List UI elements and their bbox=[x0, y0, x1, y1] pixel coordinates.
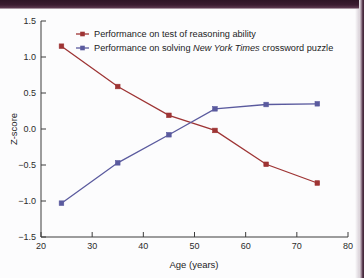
series-2 bbox=[59, 102, 319, 206]
legend-item-2: Performance on solving New York Times cr… bbox=[76, 43, 333, 53]
axis-frame bbox=[41, 21, 348, 237]
legend: Performance on test of reasoning ability… bbox=[76, 29, 333, 53]
chart-figure: −1.5−1.0−0.50.00.51.01.5 20304050607080 … bbox=[0, 0, 364, 278]
y-axis-title: Z-score bbox=[8, 113, 19, 145]
data-point-marker bbox=[167, 113, 172, 118]
plot-svg: −1.5−1.0−0.50.00.51.01.5 20304050607080 … bbox=[0, 0, 364, 278]
data-point-marker bbox=[115, 84, 120, 89]
y-axis: −1.5−1.0−0.50.00.51.01.5 bbox=[18, 16, 46, 242]
x-tick-label: 30 bbox=[87, 241, 97, 251]
y-tick-label: 1.5 bbox=[23, 16, 36, 26]
data-point-marker bbox=[59, 201, 64, 206]
x-tick-label: 40 bbox=[138, 241, 148, 251]
y-tick-label: 0.0 bbox=[23, 124, 36, 134]
series-1 bbox=[59, 44, 319, 185]
y-tick-label: −1.0 bbox=[18, 196, 36, 206]
y-tick-label: 0.5 bbox=[23, 88, 36, 98]
x-axis: 20304050607080 bbox=[36, 232, 353, 251]
data-point-marker bbox=[59, 44, 64, 49]
y-tick-label: −0.5 bbox=[18, 160, 36, 170]
data-point-marker bbox=[315, 181, 320, 186]
data-point-marker bbox=[167, 132, 172, 137]
x-tick-label: 50 bbox=[189, 241, 199, 251]
x-tick-label: 20 bbox=[36, 241, 46, 251]
data-point-marker bbox=[315, 102, 320, 107]
data-point-marker bbox=[213, 107, 218, 112]
x-tick-label: 60 bbox=[241, 241, 251, 251]
x-tick-label: 70 bbox=[292, 241, 302, 251]
x-tick-label: 80 bbox=[343, 241, 353, 251]
data-point-marker bbox=[264, 162, 269, 167]
y-tick-label: −1.5 bbox=[18, 232, 36, 242]
data-point-marker bbox=[264, 102, 269, 107]
x-axis-title: Age (years) bbox=[169, 259, 218, 270]
legend-item-1: Performance on test of reasoning ability bbox=[76, 29, 256, 39]
data-point-marker bbox=[115, 161, 120, 166]
legend-swatch-marker bbox=[80, 32, 85, 37]
legend-label: Performance on solving New York Times cr… bbox=[94, 43, 333, 53]
legend-label: Performance on test of reasoning ability bbox=[94, 29, 256, 39]
series-line bbox=[61, 104, 317, 203]
series-line bbox=[61, 46, 317, 183]
y-tick-label: 1.0 bbox=[23, 52, 36, 62]
series-layer bbox=[59, 44, 319, 206]
legend-swatch-marker bbox=[80, 46, 85, 51]
data-point-marker bbox=[213, 128, 218, 133]
